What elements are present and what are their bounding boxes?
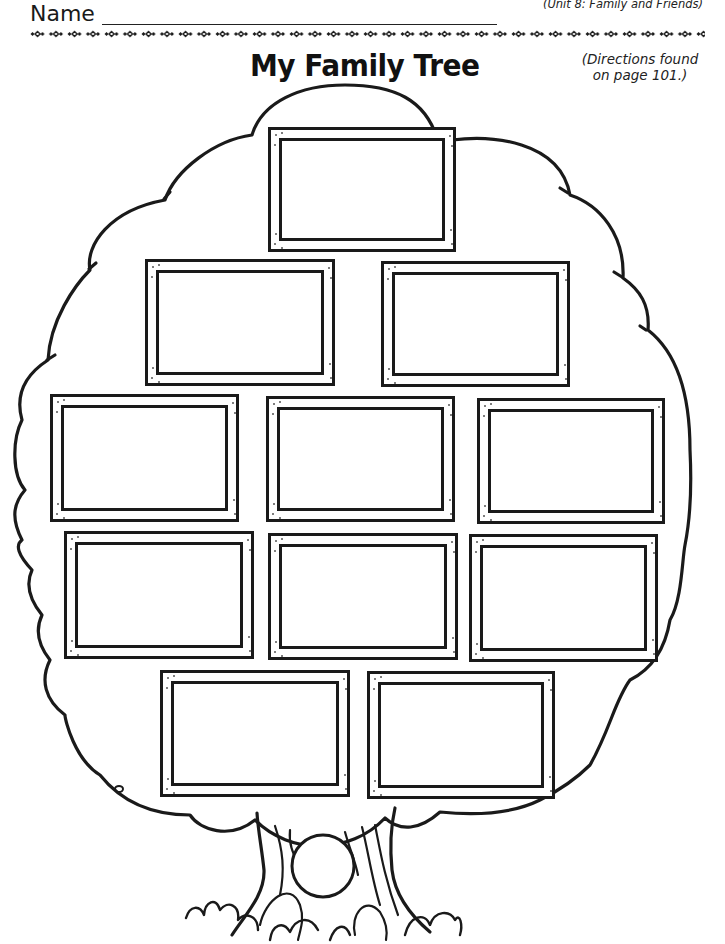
frame-dot-decoration <box>279 401 281 403</box>
frame-dot-decoration <box>248 636 250 638</box>
family-member-frame[interactable] <box>145 259 335 386</box>
frame-drawing-area[interactable] <box>171 681 339 786</box>
frame-dot-decoration <box>343 678 345 680</box>
frame-dot-decoration <box>274 243 276 245</box>
frame-dot-decoration <box>658 406 660 408</box>
frame-dot-decoration <box>166 687 168 689</box>
frame-dot-decoration <box>345 688 347 690</box>
frame-drawing-area[interactable] <box>392 272 559 376</box>
frame-dot-decoration <box>281 655 283 657</box>
frame-dot-decoration <box>158 264 160 266</box>
frame-dot-decoration <box>77 536 79 538</box>
frame-dot-decoration <box>274 651 276 653</box>
frame-dot-decoration <box>448 404 450 406</box>
frame-dot-decoration <box>281 247 283 249</box>
frame-dot-decoration <box>387 278 389 280</box>
frame-dot-decoration <box>56 411 58 413</box>
frame-dot-decoration <box>563 269 565 271</box>
frame-dot-decoration <box>388 368 390 370</box>
frame-dot-decoration <box>550 790 552 792</box>
frame-dot-decoration <box>167 778 169 780</box>
family-member-frame[interactable] <box>50 394 239 522</box>
frame-dot-decoration <box>152 367 154 369</box>
frame-drawing-area[interactable] <box>279 138 445 241</box>
family-member-frame[interactable] <box>381 261 570 387</box>
frame-dot-decoration <box>275 134 277 136</box>
family-member-frame[interactable] <box>268 127 456 252</box>
frame-dot-decoration <box>166 788 168 790</box>
frame-dot-decoration <box>272 413 274 415</box>
frame-dot-decoration <box>173 675 175 677</box>
trunk-circle-space <box>292 835 354 897</box>
frame-dot-decoration <box>659 501 661 503</box>
frame-dot-decoration <box>151 377 153 379</box>
frame-dot-decoration <box>249 549 251 551</box>
family-member-frame[interactable] <box>367 671 555 799</box>
frame-dot-decoration <box>330 277 332 279</box>
frame-dot-decoration <box>71 538 73 540</box>
frame-dot-decoration <box>483 415 485 417</box>
frame-dot-decoration <box>71 640 73 642</box>
frame-dot-decoration <box>281 538 283 540</box>
frame-dot-decoration <box>233 499 235 501</box>
frame-dot-decoration <box>475 653 477 655</box>
frame-drawing-area[interactable] <box>378 682 544 788</box>
frame-dot-decoration <box>453 551 455 553</box>
frame-dot-decoration <box>380 676 382 678</box>
family-member-frame[interactable] <box>477 398 665 524</box>
frame-dot-decoration <box>450 229 452 231</box>
frame-dot-decoration <box>482 657 484 659</box>
frame-dot-decoration <box>234 412 236 414</box>
frame-dot-decoration <box>450 513 452 515</box>
frame-dot-decoration <box>151 276 153 278</box>
family-member-frame[interactable] <box>266 396 455 522</box>
frame-dot-decoration <box>70 548 72 550</box>
frame-dot-decoration <box>373 790 375 792</box>
frame-dot-decoration <box>653 552 655 554</box>
family-member-frame[interactable] <box>160 670 350 797</box>
family-member-frame[interactable] <box>469 534 658 662</box>
frame-dot-decoration <box>247 539 249 541</box>
frame-dot-decoration <box>490 519 492 521</box>
frame-dot-decoration <box>152 266 154 268</box>
frame-dot-decoration <box>173 792 175 794</box>
frame-dot-decoration <box>249 650 251 652</box>
frame-drawing-area[interactable] <box>480 545 647 651</box>
frame-dot-decoration <box>281 132 283 134</box>
family-member-frame[interactable] <box>268 533 458 660</box>
frame-dot-decoration <box>56 513 58 515</box>
frame-dot-decoration <box>394 266 396 268</box>
frame-dot-decoration <box>484 405 486 407</box>
frame-drawing-area[interactable] <box>488 409 654 513</box>
frame-dot-decoration <box>57 503 59 505</box>
frame-dot-decoration <box>63 399 65 401</box>
frame-dot-decoration <box>550 689 552 691</box>
frame-dot-decoration <box>275 540 277 542</box>
frame-dot-decoration <box>652 639 654 641</box>
frame-drawing-area[interactable] <box>61 405 228 511</box>
frame-dot-decoration <box>374 780 376 782</box>
frame-dot-decoration <box>476 643 478 645</box>
frame-dot-decoration <box>387 378 389 380</box>
frame-dot-decoration <box>275 233 277 235</box>
frame-dot-decoration <box>345 788 347 790</box>
frame-dot-decoration <box>380 794 382 796</box>
frame-dot-decoration <box>232 402 234 404</box>
frame-dot-decoration <box>449 135 451 137</box>
frame-dot-decoration <box>158 381 160 383</box>
frame-dot-decoration <box>653 653 655 655</box>
frame-dot-decoration <box>452 637 454 639</box>
frame-dot-decoration <box>63 517 65 519</box>
frame-dot-decoration <box>451 243 453 245</box>
frame-dot-decoration <box>272 513 274 515</box>
family-member-frame[interactable] <box>64 531 254 659</box>
frame-drawing-area[interactable] <box>277 407 444 511</box>
frame-drawing-area[interactable] <box>156 270 324 375</box>
frame-drawing-area[interactable] <box>75 542 243 648</box>
frame-dot-decoration <box>279 517 281 519</box>
frame-dot-decoration <box>476 541 478 543</box>
frame-dot-decoration <box>273 503 275 505</box>
frame-dot-decoration <box>330 377 332 379</box>
frame-dot-decoration <box>274 144 276 146</box>
frame-drawing-area[interactable] <box>279 544 447 649</box>
